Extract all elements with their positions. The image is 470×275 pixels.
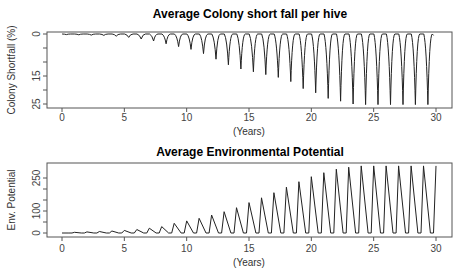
x-tick-label: 20 <box>306 243 318 254</box>
plot-title: Average Environmental Potential <box>156 145 344 159</box>
plot-title: Average Colony short fall per hive <box>153 7 348 21</box>
data-line <box>62 34 434 105</box>
chart-canvas: Average Colony short fall per hive 05101… <box>0 0 470 275</box>
x-tick-label: 15 <box>243 112 255 123</box>
y-tick-label: 0 <box>31 31 42 37</box>
figure: Average Colony short fall per hive 05101… <box>0 0 470 275</box>
x-tick-label: 0 <box>59 243 65 254</box>
x-axis: 051015202530 <box>59 237 442 254</box>
y-tick-label: 250 <box>31 169 42 186</box>
x-tick-label: 20 <box>306 112 318 123</box>
x-tick-label: 10 <box>181 243 193 254</box>
y-tick-label: 100 <box>31 202 42 219</box>
x-tick-label: 15 <box>243 243 255 254</box>
x-tick-label: 5 <box>122 243 128 254</box>
x-axis-label: (Years) <box>233 257 265 268</box>
plot-frame <box>47 163 452 237</box>
x-tick-label: 10 <box>181 112 193 123</box>
x-tick-label: 5 <box>122 112 128 123</box>
x-axis: 051015202530 <box>59 108 442 123</box>
plot-env-potential: Average Environmental Potential 05101520… <box>6 145 452 268</box>
data-line <box>62 166 436 233</box>
y-tick-label: 15 <box>31 70 42 82</box>
x-tick-label: 0 <box>59 112 65 123</box>
y-axis: 01525 <box>31 31 47 110</box>
y-axis-label: Env. Potential <box>6 170 17 231</box>
x-tick-label: 30 <box>430 243 442 254</box>
y-axis-label: Colony Shortfall (%) <box>6 26 17 115</box>
x-tick-label: 25 <box>368 112 380 123</box>
x-tick-label: 30 <box>430 112 442 123</box>
y-tick-label: 25 <box>31 98 42 110</box>
x-axis-label: (Years) <box>233 126 265 137</box>
plot-colony-shortfall: Average Colony short fall per hive 05101… <box>6 7 452 137</box>
y-axis: 0100250 <box>31 169 47 236</box>
x-tick-label: 25 <box>368 243 380 254</box>
y-tick-label: 0 <box>31 230 42 236</box>
